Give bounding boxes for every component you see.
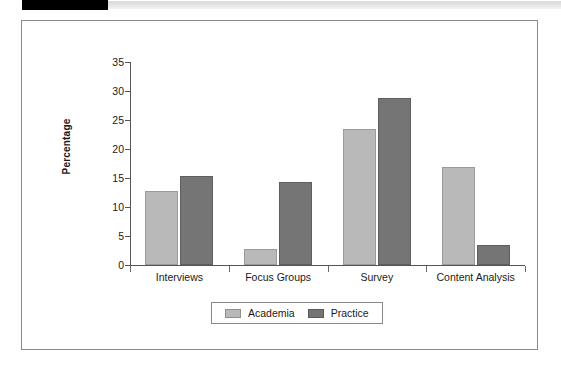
x-tick-mark: [525, 266, 526, 272]
x-axis-category-label: Focus Groups: [229, 271, 328, 283]
legend-item-label: Academia: [248, 308, 295, 319]
y-tick-mark: [125, 149, 131, 150]
figure-frame: Percentage 05101520253035 InterviewsFocu…: [21, 20, 538, 350]
bar-practice-survey: [378, 98, 411, 265]
y-tick-label: 35: [92, 57, 124, 67]
y-tick-mark: [125, 91, 131, 92]
y-tick-mark: [125, 120, 131, 121]
y-tick-mark: [125, 207, 131, 208]
bar-practice-content-analysis: [477, 245, 510, 265]
y-tick-label: 15: [92, 173, 124, 183]
legend-swatch-icon: [308, 309, 324, 318]
bar-academia-survey: [343, 129, 376, 265]
y-tick-mark: [125, 62, 131, 63]
y-tick-mark: [125, 236, 131, 237]
x-axis-category-label: Content Analysis: [426, 271, 525, 283]
x-axis-category-label: Survey: [328, 271, 427, 283]
bar-academia-interviews: [145, 191, 178, 265]
y-tick-label: 25: [92, 115, 124, 125]
y-tick-label: 10: [92, 202, 124, 212]
header-black-tab: [22, 0, 108, 10]
bar-chart-plot-area: Percentage 05101520253035 InterviewsFocu…: [22, 21, 539, 351]
chart-legend: AcademiaPractice: [211, 302, 383, 324]
y-axis-title: Percentage: [61, 87, 72, 207]
x-axis-category-label: Interviews: [130, 271, 229, 283]
y-tick-label: 0: [92, 260, 124, 270]
header-gray-rule: [108, 1, 561, 9]
bar-academia-focus-groups: [244, 249, 277, 265]
bar-practice-interviews: [180, 176, 213, 265]
y-tick-mark: [125, 178, 131, 179]
y-tick-label: 20: [92, 144, 124, 154]
page-header-band: [0, 0, 561, 11]
legend-item-label: Practice: [331, 308, 369, 319]
legend-swatch-icon: [225, 309, 241, 318]
bar-practice-focus-groups: [279, 182, 312, 265]
legend-item-academia: Academia: [225, 308, 295, 319]
bar-academia-content-analysis: [442, 167, 475, 265]
y-tick-label: 30: [92, 86, 124, 96]
legend-item-practice: Practice: [308, 308, 369, 319]
y-tick-label: 5: [92, 231, 124, 241]
